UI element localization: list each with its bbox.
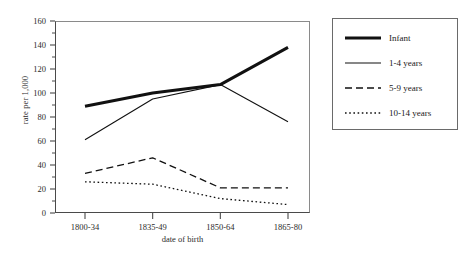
chart-figure: 020406080100120140160 1800-341835-491850… bbox=[0, 0, 470, 256]
legend-label: 10-14 years bbox=[389, 108, 431, 118]
data-series-layer bbox=[85, 47, 288, 204]
legend-label: 5-9 years bbox=[389, 83, 422, 93]
x-tick-label: 1865-80 bbox=[258, 222, 318, 232]
x-tick-label: 1835-49 bbox=[123, 222, 183, 232]
y-tick-label: 0 bbox=[16, 209, 46, 217]
x-tick-label: 1850-64 bbox=[190, 222, 250, 232]
legend-line-swatch-icon bbox=[343, 57, 383, 69]
legend-label: Infant bbox=[389, 33, 411, 43]
y-tick-label: 40 bbox=[16, 161, 46, 169]
chart-canvas bbox=[0, 0, 320, 256]
x-axis-title: date of birth bbox=[55, 234, 310, 244]
legend-line-swatch-icon bbox=[343, 107, 383, 119]
plot-area: 020406080100120140160 1800-341835-491850… bbox=[0, 0, 320, 256]
series-line bbox=[85, 85, 288, 140]
y-axis-title: rate per 1,000 bbox=[20, 45, 30, 155]
legend-line-swatch-icon bbox=[343, 82, 383, 94]
legend-line-swatch-icon bbox=[343, 32, 383, 44]
legend-item[interactable]: Infant bbox=[333, 25, 459, 51]
legend-item[interactable]: 1-4 years bbox=[333, 50, 459, 76]
tick-marks bbox=[50, 21, 288, 219]
series-line bbox=[85, 47, 288, 106]
x-tick-label: 1800-34 bbox=[55, 222, 115, 232]
series-line bbox=[85, 182, 288, 205]
y-tick-label: 20 bbox=[16, 185, 46, 193]
y-tick-label: 160 bbox=[16, 17, 46, 25]
legend-label: 1-4 years bbox=[389, 58, 422, 68]
legend-item[interactable]: 10-14 years bbox=[333, 100, 459, 126]
legend-box: Infant1-4 years5-9 years10-14 years bbox=[332, 18, 458, 130]
legend-item[interactable]: 5-9 years bbox=[333, 75, 459, 101]
